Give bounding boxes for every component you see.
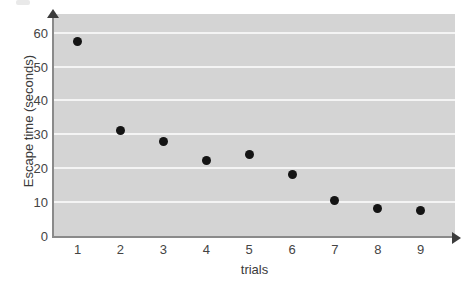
- data-point: [159, 137, 168, 146]
- gridline: [54, 32, 455, 34]
- x-tick-label: 9: [406, 243, 436, 257]
- scatter-chart: 0102030405060 123456789 Escape time (sec…: [0, 0, 470, 286]
- x-tick-label: 6: [277, 243, 307, 257]
- data-point: [288, 170, 297, 179]
- gridline: [54, 133, 455, 135]
- x-tick-label: 5: [234, 243, 264, 257]
- data-point: [245, 150, 254, 159]
- x-tick-label: 1: [63, 243, 93, 257]
- y-axis-arrow-icon: [47, 9, 59, 18]
- y-axis-title: Escape time (seconds): [22, 11, 36, 231]
- data-point: [416, 206, 425, 215]
- gridline: [54, 201, 455, 203]
- gridline: [54, 66, 455, 68]
- y-axis-line: [52, 17, 54, 238]
- data-point: [330, 196, 339, 205]
- data-point: [73, 37, 82, 46]
- x-tick-label: 7: [320, 243, 350, 257]
- x-axis-line: [52, 236, 454, 238]
- x-tick-label: 3: [148, 243, 178, 257]
- x-tick-label: 2: [105, 243, 135, 257]
- data-point: [202, 156, 211, 165]
- x-tick-label: 8: [363, 243, 393, 257]
- gridline: [54, 167, 455, 169]
- gridline: [54, 99, 455, 101]
- x-axis-arrow-icon: [452, 232, 461, 244]
- data-point: [116, 126, 125, 135]
- y-tick-label: 0: [2, 230, 48, 243]
- plot-area: [54, 14, 455, 236]
- x-tick-label: 4: [191, 243, 221, 257]
- data-point: [373, 204, 382, 213]
- x-axis-title: trials: [54, 263, 455, 277]
